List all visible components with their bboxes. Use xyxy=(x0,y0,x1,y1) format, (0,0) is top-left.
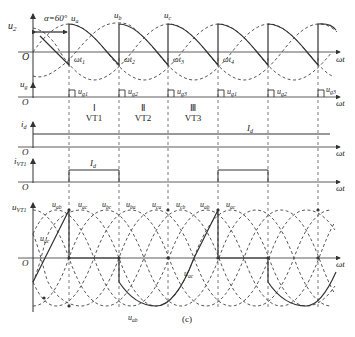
panel-uvt1: uVT1 O ωt uab uac ubc uba uca ucb xyxy=(12,200,345,323)
uvt1-label-uac2: uac xyxy=(226,200,236,210)
id-x-label: ωt xyxy=(336,148,345,158)
panel-id: id O ωt Id xyxy=(18,119,345,158)
instant-label-wt1: ωt1 xyxy=(74,55,85,65)
uvt1-label-uca: uca xyxy=(152,200,161,210)
interval-device-3: VT3 xyxy=(185,113,202,123)
uvt1-label-uac: uac xyxy=(78,200,88,210)
pulse-label-ug3: ug3 xyxy=(177,87,187,97)
id-origin: O xyxy=(22,147,29,157)
interval-device-1: VT1 xyxy=(86,113,103,123)
interval-roman-2: Ⅱ xyxy=(141,103,145,113)
uvt1-label-ucb: ucb xyxy=(176,200,185,210)
alpha-label: α=60° xyxy=(44,13,68,23)
u2-y-label: u2 xyxy=(8,20,17,33)
instant-label-wt4: ωt4 xyxy=(223,55,234,65)
uvt1-label-uba: uba xyxy=(126,200,136,210)
phase-label-uc: uc xyxy=(164,10,172,21)
pulse-label-ug1: ug1 xyxy=(78,87,88,97)
interval-roman-1: Ⅰ xyxy=(93,103,96,113)
id-y-label: id xyxy=(21,119,28,130)
uvt1-label-ubc: ubc xyxy=(102,200,112,210)
uvt1-label-uab: uab xyxy=(52,200,62,210)
panel-ug: ug O ωt ug1 ug2 ug3 ug1 ug2 ug3 Ⅰ VT1 Ⅱ … xyxy=(18,79,345,123)
phase-label-ua: ua xyxy=(71,13,79,24)
ivt1-level-label: Id xyxy=(89,158,97,169)
uvt1-y-label: uVT1 xyxy=(12,202,27,213)
id-level-label: Id xyxy=(246,123,254,134)
ivt1-origin: O xyxy=(22,182,29,192)
ivt1-y-label: iVT1 xyxy=(14,156,27,167)
uvt1-label-uab2: uab xyxy=(200,200,210,210)
panel-u2: u2 O ωt α=60° ua ub uc ωt1 ωt2 ωt3 ωt4 xyxy=(8,10,345,86)
ug-origin: O xyxy=(22,97,29,107)
pulse-label-ug2b: ug2 xyxy=(277,87,287,97)
phase-label-ub: ub xyxy=(114,10,122,21)
pulse-label-ug1b: ug1 xyxy=(227,87,237,97)
uvt1-origin: O xyxy=(22,258,29,268)
panel-ivt1: iVT1 O ωt Id xyxy=(14,156,345,193)
ivt1-x-label: ωt xyxy=(336,183,345,193)
ug-y-label: ug xyxy=(20,79,28,90)
instant-label-wt3: ωt3 xyxy=(173,55,184,65)
u2-origin: O xyxy=(22,51,29,62)
uvt1-inner-label-uac-left: uac xyxy=(40,234,50,244)
interval-device-2: VT2 xyxy=(135,113,152,123)
three-phase-half-wave-rectifier-waveforms: u2 O ωt α=60° ua ub uc ωt1 ωt2 ωt3 ωt4 u… xyxy=(0,0,355,337)
u2-x-label: ωt xyxy=(336,54,345,64)
uvt1-x-label: ωt xyxy=(336,259,345,269)
ivt1-current-pulses xyxy=(69,170,268,182)
pulse-label-ug3b: ug3 xyxy=(326,85,336,95)
instant-label-wt2: ωt2 xyxy=(124,55,135,65)
ug-x-label: ωt xyxy=(336,98,345,108)
figure-caption: (c) xyxy=(182,314,192,324)
interval-roman-3: Ⅲ xyxy=(190,103,196,113)
uvt1-inner-label-uab-bottom: uab xyxy=(128,313,138,323)
pulse-label-ug2: ug2 xyxy=(128,87,138,97)
